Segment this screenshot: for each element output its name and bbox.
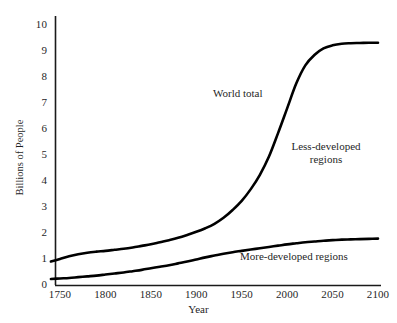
y-axis-tick-8: 8: [23, 70, 47, 82]
y-axis-tick-7: 7: [23, 96, 47, 108]
population-growth-chart: 109876543210 175018001850190019502000205…: [0, 0, 397, 323]
y-axis-tick-10: 10: [23, 18, 47, 30]
x-axis-tick-2000: 2000: [267, 288, 307, 300]
x-axis-tick-1900: 1900: [176, 288, 216, 300]
y-axis-tick-3: 3: [23, 200, 47, 212]
y-axis-tick-2: 2: [23, 226, 47, 238]
y-axis-tick-1: 1: [23, 252, 47, 264]
y-axis-title: Billions of People: [14, 98, 25, 218]
x-axis-title: Year: [0, 303, 397, 315]
x-axis-tick-2050: 2050: [313, 288, 353, 300]
y-axis-tick-9: 9: [23, 44, 47, 56]
annotation-less-developed-line2: regions: [310, 153, 342, 165]
x-axis-tick-1850: 1850: [131, 288, 171, 300]
x-axis-tick-1950: 1950: [222, 288, 262, 300]
annotation-less-developed-regions: Less-developed regions: [278, 140, 374, 166]
y-axis-tick-4: 4: [23, 174, 47, 186]
y-axis-tick-5: 5: [23, 148, 47, 160]
annotation-more-developed-regions: More-developed regions: [240, 250, 348, 263]
annotation-less-developed-line1: Less-developed: [291, 140, 360, 152]
x-axis-tick-2100: 2100: [358, 288, 397, 300]
x-axis-tick-1750: 1750: [40, 288, 80, 300]
annotation-world-total: World total: [213, 87, 263, 100]
y-axis-tick-6: 6: [23, 122, 47, 134]
x-axis-tick-1800: 1800: [85, 288, 125, 300]
